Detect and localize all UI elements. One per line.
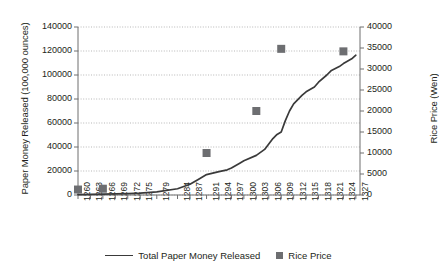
legend-line-swatch: [105, 255, 133, 256]
series-marker-rice-price: [339, 47, 347, 55]
series-marker-rice-price: [277, 45, 285, 53]
series-marker-rice-price: [74, 186, 82, 194]
series-marker-rice-price: [99, 185, 107, 193]
legend-square-swatch: [276, 252, 283, 259]
legend-label: Total Paper Money Released: [138, 250, 260, 261]
chart-legend: Total Paper Money ReleasedRice Price: [0, 250, 437, 261]
series-marker-rice-price: [252, 107, 260, 115]
series-line-total-paper-money-released: [78, 55, 356, 194]
legend-entry[interactable]: Total Paper Money Released: [105, 250, 260, 261]
legend-entry[interactable]: Rice Price: [276, 250, 331, 261]
legend-label: Rice Price: [288, 250, 331, 261]
series-marker-rice-price: [203, 149, 211, 157]
